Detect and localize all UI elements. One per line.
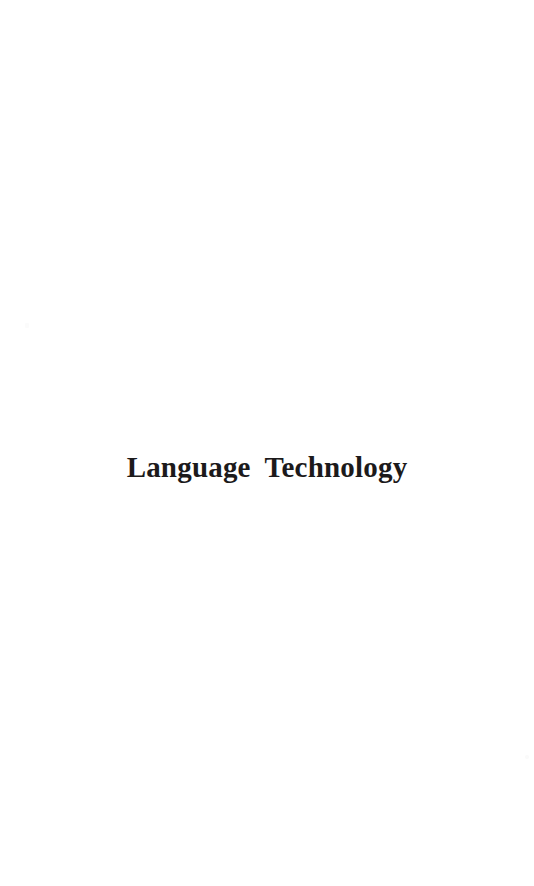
document-page: Language Technology — [0, 0, 534, 886]
scan-artifact-speck-top-left — [25, 323, 29, 328]
scan-artifact-speck-bottom-right — [525, 755, 529, 759]
page-title: Language Technology — [0, 449, 534, 485]
